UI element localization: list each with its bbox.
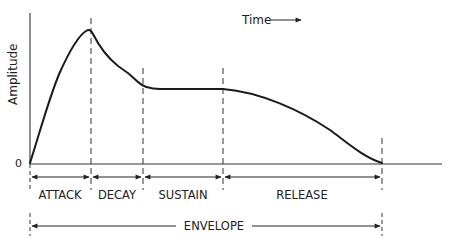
y-axis-label: Amplitude [6,44,20,106]
attack-label: ATTACK [38,188,82,202]
zero-label: 0 [15,157,22,170]
release-label: RELEASE [276,188,327,202]
time-label: Time [241,13,271,27]
decay-label: DECAY [98,188,137,202]
sustain-label: SUSTAIN [158,188,207,202]
adsr-envelope-diagram: Amplitude 0 Time ATTACK DECAY SUSTAIN RE… [0,0,450,252]
envelope-curve [30,30,382,163]
envelope-label: ENVELOPE [184,219,244,233]
